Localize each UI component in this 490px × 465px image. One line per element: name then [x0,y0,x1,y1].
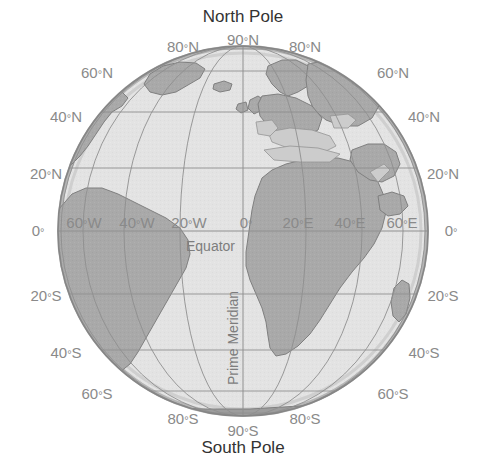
lat-label-left-20N: 20°N [30,165,62,182]
lat-label-90N: 90°N [227,31,259,48]
lat-label-right-20N: 20°N [427,165,459,182]
lat-label-left-0: 0° [32,222,45,239]
prime-meridian-label: Prime Meridian [225,291,241,385]
lat-label-left-40S: 40°S [50,344,81,361]
lat-label-left-40N: 40°N [50,108,82,125]
lat-label-left-20S: 20°S [30,287,61,304]
lat-label-right-60N: 60°N [377,64,409,81]
lon-label-20E: 20°E [282,214,313,231]
graticule [58,46,428,416]
lat-label-right-60S: 60°S [377,385,408,402]
globe-figure: North Pole South Pole 90°N 90°S 80°N 60°… [0,0,490,465]
lat-label-right-20S: 20°S [427,287,458,304]
lat-label-left-60N: 60°N [81,64,113,81]
longitude-labels: 60°W 40°W 20°W 0° 20°E 40°E 60°E [66,214,417,231]
lat-label-right-40S: 40°S [408,344,439,361]
lat-label-left-80N: 80°N [167,38,199,55]
lat-label-right-80S: 80°S [289,410,320,427]
lat-label-left-80S: 80°S [167,410,198,427]
lat-label-right-0: 0° [445,222,458,239]
equator-label: Equator [186,238,235,254]
north-pole-label: North Pole [203,7,283,26]
lat-label-right-80N: 80°N [289,38,321,55]
lat-label-left-60S: 60°S [81,385,112,402]
lon-label-60E: 60°E [386,214,417,231]
lat-label-right-40N: 40°N [408,108,440,125]
globe-svg: North Pole South Pole 90°N 90°S 80°N 60°… [0,0,490,465]
south-pole-label: South Pole [201,438,284,457]
lon-label-40E: 40°E [334,214,365,231]
lat-label-90S: 90°S [227,422,258,439]
